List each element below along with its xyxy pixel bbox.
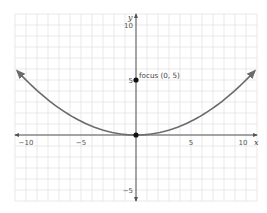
parabola-chart: −10−5510105−5 x y focus (0, 5): [0, 0, 267, 213]
x-axis-label: x: [254, 138, 259, 147]
focus-point: [133, 77, 138, 82]
axes: [15, 14, 257, 201]
y-tick-label: 10: [124, 22, 133, 30]
y-tick-label: −5: [123, 187, 133, 195]
y-tick-label: 5: [129, 77, 133, 85]
vertex-point: [133, 132, 138, 137]
x-tick-label: 10: [239, 139, 248, 147]
focus-label: focus (0, 5): [139, 71, 180, 80]
y-axis-label: y: [127, 13, 133, 22]
x-tick-label: −10: [19, 139, 34, 147]
x-tick-label: −5: [76, 139, 86, 147]
x-tick-label: 5: [189, 139, 193, 147]
